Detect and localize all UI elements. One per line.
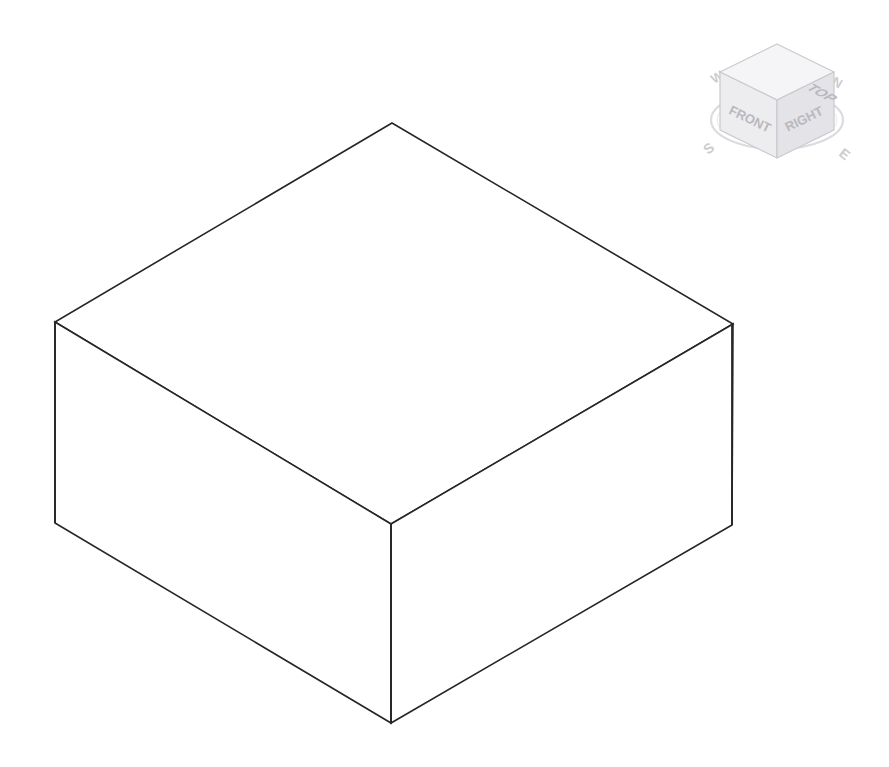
compass-label-south[interactable]: S: [700, 139, 717, 157]
cad-viewport[interactable]: W N S E TOP FRONT RIGHT: [0, 0, 889, 767]
isometric-box[interactable]: [55, 123, 733, 723]
compass-label-east[interactable]: E: [836, 145, 853, 163]
view-cube-widget[interactable]: W N S E TOP FRONT RIGHT: [690, 28, 870, 183]
